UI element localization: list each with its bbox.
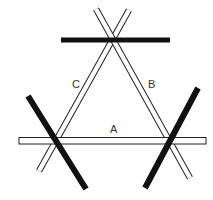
stick-diagram: C B A xyxy=(0,0,213,200)
label-a: A xyxy=(110,123,118,135)
stick-a xyxy=(19,138,206,145)
label-b: B xyxy=(148,78,155,90)
label-c: C xyxy=(72,78,80,90)
